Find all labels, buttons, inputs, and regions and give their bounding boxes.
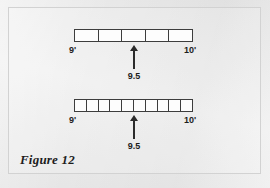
ruler-bottom-segment [181, 100, 192, 111]
ruler-bottom-segment [110, 100, 122, 111]
ruler-bottom-group: 9' 10' 9.5 [0, 70, 270, 160]
ruler-top-segment [146, 30, 170, 41]
figure-page: 9' 10' 9.5 9' 10' 9.5 Fig [0, 0, 270, 188]
ruler-top-pointer-arrow-icon [127, 45, 141, 69]
ruler-top-segment [122, 30, 146, 41]
ruler-bottom-segment [146, 100, 158, 111]
ruler-bottom-bar [74, 99, 193, 112]
figure-caption: Figure 12 [20, 152, 75, 168]
arrow-shaft [133, 51, 135, 69]
ruler-bottom-start-label: 9' [69, 115, 76, 125]
ruler-top-segment [99, 30, 123, 41]
ruler-top-end-label: 10' [184, 45, 196, 55]
ruler-bottom-pointer-label: 9.5 [120, 141, 148, 151]
ruler-bottom-segment [158, 100, 170, 111]
ruler-bottom-segment [87, 100, 99, 111]
ruler-bottom-segment [75, 100, 87, 111]
ruler-bottom-segment [99, 100, 111, 111]
ruler-bottom-segment [169, 100, 181, 111]
arrow-shaft [133, 121, 135, 139]
ruler-top-start-label: 9' [69, 45, 76, 55]
ruler-bottom-end-label: 10' [184, 115, 196, 125]
ruler-top-bar [74, 29, 193, 42]
ruler-bottom-segment [134, 100, 146, 111]
ruler-top-segment [75, 30, 99, 41]
ruler-top-segment [169, 30, 192, 41]
ruler-bottom-pointer-arrow-icon [127, 115, 141, 139]
ruler-bottom-segment [122, 100, 134, 111]
